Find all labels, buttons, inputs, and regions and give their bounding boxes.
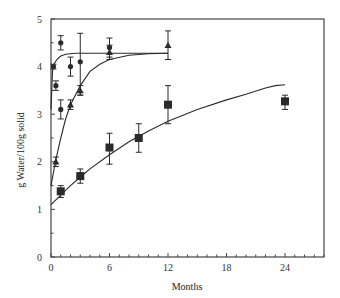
y-axis: 012345 bbox=[37, 14, 55, 263]
triangle-marker bbox=[106, 49, 113, 55]
y-tick-label: 1 bbox=[37, 204, 42, 215]
squares-point bbox=[281, 95, 289, 109]
y-tick-label: 0 bbox=[37, 252, 42, 263]
x-tick-label: 18 bbox=[222, 262, 232, 273]
x-axis-label: Months bbox=[172, 281, 203, 292]
chart: 06121824 012345 Months g Water/100g soli… bbox=[0, 0, 340, 298]
plot-frame bbox=[51, 19, 324, 257]
x-tick-label: 0 bbox=[49, 262, 54, 273]
triangles-point bbox=[165, 31, 172, 60]
circle-marker bbox=[58, 107, 63, 112]
triangle-marker bbox=[165, 42, 172, 48]
x-tick-label: 6 bbox=[107, 262, 112, 273]
y-tick-label: 3 bbox=[37, 109, 42, 120]
triangles-fit-curve bbox=[51, 53, 168, 185]
square-marker bbox=[106, 144, 114, 152]
y-tick-label: 2 bbox=[37, 156, 42, 167]
circle-marker bbox=[51, 64, 56, 69]
fit-curves bbox=[51, 53, 285, 204]
square-marker bbox=[76, 172, 84, 180]
circle-marker bbox=[78, 59, 83, 64]
triangles-point bbox=[67, 100, 74, 110]
squares-point bbox=[57, 186, 65, 198]
y-tick-label: 4 bbox=[37, 61, 42, 72]
circle-marker bbox=[68, 64, 73, 69]
square-marker bbox=[164, 101, 172, 109]
triangle-marker bbox=[67, 101, 74, 107]
y-axis-label: g Water/100g solid bbox=[15, 112, 26, 188]
y-tick-label: 5 bbox=[37, 14, 42, 25]
squares-point bbox=[76, 169, 84, 183]
squares-point bbox=[135, 124, 143, 153]
plot-border bbox=[51, 19, 324, 257]
circles-fit-curve bbox=[51, 53, 168, 109]
x-axis: 06121824 bbox=[49, 253, 325, 273]
circles-point bbox=[58, 100, 64, 119]
square-marker bbox=[135, 134, 143, 142]
squares-point bbox=[106, 133, 114, 164]
squares-point bbox=[164, 86, 172, 124]
square-marker bbox=[281, 97, 289, 105]
circles-point bbox=[53, 81, 59, 91]
x-tick-label: 12 bbox=[163, 262, 173, 273]
circle-marker bbox=[58, 40, 63, 45]
circles-point bbox=[68, 57, 74, 76]
circle-marker bbox=[53, 83, 58, 88]
square-marker bbox=[57, 187, 65, 195]
x-tick-label: 24 bbox=[280, 262, 290, 273]
circles-point bbox=[58, 36, 64, 50]
